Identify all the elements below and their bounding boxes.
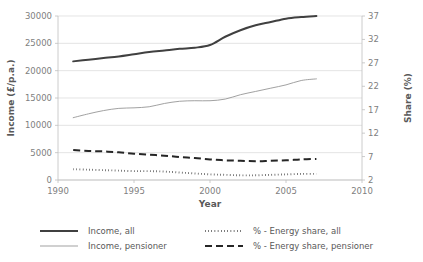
y2-tick-label: 32 <box>368 34 379 44</box>
series-line-0 <box>73 16 316 61</box>
x-axis-ticks: 19901995200020052010 <box>47 180 373 196</box>
y2-tick-label: 37 <box>368 11 379 21</box>
y2-tick-label: 7 <box>368 152 373 162</box>
data-series-group <box>73 16 316 175</box>
y-tick-label: 20000 <box>25 66 52 76</box>
legend-item: Income, pensioner <box>40 241 167 251</box>
y2-tick-label: 12 <box>368 128 379 138</box>
chart-container: 0500010000150002000025000300002712172227… <box>0 0 423 262</box>
legend-label: % - Energy share, all <box>253 226 341 236</box>
y-tick-label: 0 <box>47 175 52 185</box>
legend-item: Income, all <box>40 226 135 236</box>
chart-legend: Income, all% - Energy share, allIncome, … <box>40 226 374 251</box>
y-tick-label: 10000 <box>25 120 52 130</box>
gridlines <box>58 16 362 180</box>
series-line-2 <box>73 169 316 175</box>
legend-label: % - Energy share, pensioner <box>253 241 374 251</box>
y-axis-ticks: 050001000015000200002500030000 <box>25 11 58 185</box>
y-axis-title: Income (£/p.a.) <box>6 59 16 136</box>
x-tick-label: 1995 <box>123 186 145 196</box>
x-tick-label: 1990 <box>47 186 69 196</box>
y2-tick-label: 2 <box>368 175 373 185</box>
y-tick-label: 25000 <box>25 38 52 48</box>
y2-tick-label: 22 <box>368 81 379 91</box>
x-axis-title: Year <box>198 199 222 209</box>
y2-axis-ticks: 27121722273237 <box>362 11 379 185</box>
legend-item: % - Energy share, all <box>205 226 341 236</box>
x-tick-label: 2000 <box>199 186 221 196</box>
series-line-3 <box>73 150 316 161</box>
y-tick-label: 15000 <box>25 93 52 103</box>
x-tick-label: 2010 <box>351 186 373 196</box>
dual-axis-line-chart: 0500010000150002000025000300002712172227… <box>0 0 423 262</box>
y2-axis-title: Share (%) <box>403 73 413 123</box>
y-tick-label: 5000 <box>30 148 52 158</box>
y-tick-label: 30000 <box>25 11 52 21</box>
legend-item: % - Energy share, pensioner <box>205 241 374 251</box>
x-tick-label: 2005 <box>275 186 297 196</box>
y2-tick-label: 17 <box>368 105 379 115</box>
y2-tick-label: 27 <box>368 58 379 68</box>
legend-label: Income, pensioner <box>88 241 167 251</box>
legend-label: Income, all <box>88 226 135 236</box>
